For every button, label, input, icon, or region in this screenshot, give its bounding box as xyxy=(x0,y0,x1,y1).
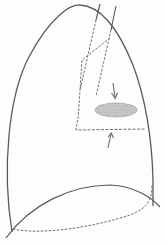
horizontal-dashed-border xyxy=(76,128,145,130)
arrow-up-icon xyxy=(108,133,114,148)
fissure-line-1 xyxy=(80,20,96,90)
airway-line-right xyxy=(111,6,116,30)
lesion-opacity xyxy=(95,103,137,117)
diaphragm-curve xyxy=(6,185,160,238)
lung-diagram: lung outline with lesion xyxy=(0,0,167,245)
lung-outline xyxy=(7,5,153,232)
diagram-canvas xyxy=(0,0,167,245)
posterior-base-dashed xyxy=(13,185,152,231)
fissure-line-2 xyxy=(96,30,111,96)
arrow-down-icon xyxy=(112,83,118,99)
